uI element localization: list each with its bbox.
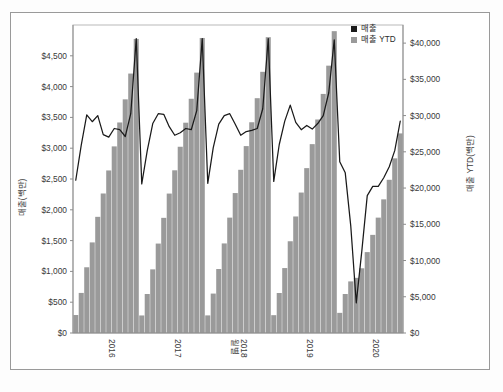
bar [161,218,166,333]
y-axis-left-tick-label: $500 [48,297,67,307]
bar [178,147,183,333]
bar [398,133,403,333]
bar [211,294,216,333]
bar [288,241,293,333]
x-axis-title: 월별 [230,339,240,355]
bar [343,294,348,333]
bar [255,98,260,333]
x-axis-tick-label: 2020 [371,339,381,358]
y-axis-left: $0$500$1,000$1,500$2,000$2,500$3,000$3,5… [41,25,73,338]
bar [233,193,238,333]
bar [227,218,232,333]
legend-label: 매출 YTD [361,34,396,44]
bar [387,180,392,333]
bar [392,158,397,333]
bar [321,94,326,333]
y-axis-right-tick-label: $10,000 [410,256,441,266]
x-axis-tick-label: 2016 [107,339,117,358]
y-axis-right-tick-label: $20,000 [410,183,441,193]
bar [310,144,315,333]
bar [337,313,342,333]
bar [293,216,298,333]
y-axis-right: $0$5,000$10,000$15,000$20,000$25,000$30,… [403,25,441,338]
y-axis-left-tick-label: $4,000 [41,82,67,92]
bar [299,193,304,333]
y-axis-right-tick-label: $0 [410,328,420,338]
bar [238,170,243,333]
bar [150,269,155,333]
bar [95,217,100,333]
y-axis-left-tick-label: $2,500 [41,174,67,184]
y-axis-right-tick-label: $40,000 [410,38,441,48]
bar [304,168,309,333]
bar [370,235,375,333]
bar [222,243,227,333]
combo-chart: $0$500$1,000$1,500$2,000$2,500$3,000$3,5… [11,13,491,371]
y-axis-right-title: 매출 YTD(백만) [465,135,475,192]
y-axis-left-tick-label: $4,500 [41,51,67,61]
bar [249,122,254,333]
y-axis-right-tick-label: $5,000 [410,292,436,302]
y-axis-left-tick-label: $2,000 [41,205,67,215]
bar [106,170,111,333]
bar [359,268,364,333]
y-axis-left-tick-label: $0 [58,328,68,338]
bar [156,244,161,333]
y-axis-left-tick-label: $1,500 [41,236,67,246]
bar [183,123,188,333]
x-axis-tick-label: 2019 [305,339,315,358]
bar [381,199,386,333]
y-axis-right-tick-label: $35,000 [410,74,441,84]
y-axis-right-tick-label: $15,000 [410,219,441,229]
bar [84,267,89,333]
bar [315,120,320,333]
legend-swatch [351,26,357,32]
bar [101,193,106,333]
bar [271,315,276,333]
y-axis-left-tick-label: $3,000 [41,143,67,153]
legend-swatch [351,37,357,43]
bar [172,170,177,333]
bar [79,293,84,333]
legend-label: 매출 [361,23,377,33]
x-axis-tick-label: 2017 [173,339,183,358]
y-axis-left-tick-label: $1,000 [41,266,67,276]
y-axis-right-tick-label: $25,000 [410,147,441,157]
bar [189,99,194,333]
bar [365,252,370,333]
y-axis-right-tick-label: $30,000 [410,111,441,121]
bar [117,122,122,333]
figure-page: $0$500$1,000$1,500$2,000$2,500$3,000$3,5… [0,0,503,392]
bar [139,315,144,333]
x-axis-categories: 20162017201820192020 [107,339,381,358]
bar [73,315,78,333]
bar [167,194,172,333]
y-axis-left-tick-label: $3,500 [41,112,67,122]
bar [376,218,381,333]
y-axis-left-title: 매출(백만) [17,178,27,216]
bar [216,269,221,333]
bar [282,268,287,333]
bar [205,315,210,333]
caption-strip [12,376,312,388]
bar [326,66,331,333]
bar [90,242,95,333]
bar [277,293,282,333]
chart-frame: $0$500$1,000$1,500$2,000$2,500$3,000$3,5… [10,12,490,370]
bar [244,146,249,333]
bar [348,281,353,333]
bar [145,294,150,333]
bar [112,146,117,333]
